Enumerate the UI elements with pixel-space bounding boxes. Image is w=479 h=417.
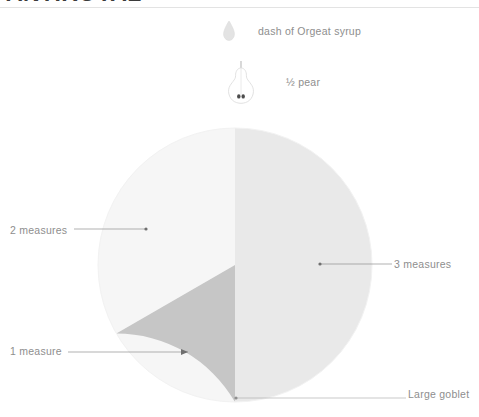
callout-label-one-measure: 1 measure <box>10 345 62 357</box>
pie-slice-three-measures[interactable] <box>235 128 372 402</box>
pie-chart <box>0 0 479 417</box>
pie-chart-svg <box>0 0 479 417</box>
callout-label-three-measures: 3 measures <box>394 258 451 270</box>
callout-label-glassware: Large goblet <box>408 388 469 400</box>
callout-label-two-measures: 2 measures <box>10 224 67 236</box>
